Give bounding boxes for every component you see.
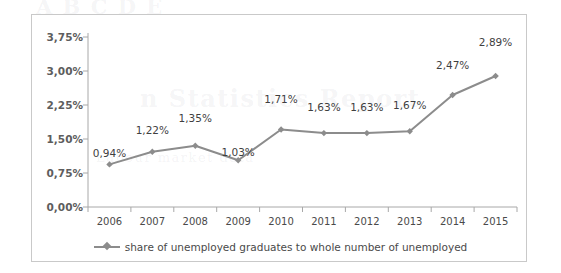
x-axis-tick-label: 2007 xyxy=(140,216,165,227)
data-point-label: 1,63% xyxy=(307,101,340,113)
x-axis-ticks xyxy=(88,207,517,212)
x-axis-tick-label: 2009 xyxy=(225,216,250,227)
x-axis-tick-label: 2008 xyxy=(183,216,208,227)
x-axis-tick-label: 2010 xyxy=(268,216,293,227)
legend-label: share of unemployed graduates to whole n… xyxy=(125,241,468,253)
data-point-label: 2,89% xyxy=(479,36,512,48)
x-axis-tick-label: 2013 xyxy=(397,216,422,227)
series-line-unemployed-graduates xyxy=(110,76,496,164)
data-point-label: 1,22% xyxy=(136,124,169,136)
data-point-label: 0,94% xyxy=(93,147,126,159)
x-axis-tick-label: 2006 xyxy=(97,216,122,227)
data-point-label: 1,63% xyxy=(350,101,383,113)
legend-marker-icon xyxy=(94,242,120,252)
chart-plot-svg xyxy=(0,0,561,273)
data-point-label: 1,03% xyxy=(221,146,254,158)
data-point-label: 2,47% xyxy=(436,59,469,71)
data-point-label: 1,35% xyxy=(179,112,212,124)
chart-legend: share of unemployed graduates to whole n… xyxy=(0,241,561,253)
x-axis-tick-label: 2014 xyxy=(440,216,465,227)
data-point-label: 1,67% xyxy=(393,99,426,111)
line-chart-figure: 0,00%0,75%1,50%2,25%3,00%3,75% 200620072… xyxy=(0,0,561,273)
x-axis-tick-label: 2011 xyxy=(311,216,336,227)
series-markers xyxy=(106,73,499,168)
data-point-label: 1,71% xyxy=(264,93,297,105)
y-axis-ticks xyxy=(83,37,88,207)
x-axis-tick-label: 2012 xyxy=(354,216,379,227)
x-axis-tick-label: 2015 xyxy=(483,216,508,227)
